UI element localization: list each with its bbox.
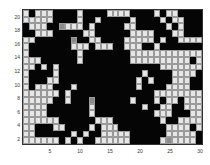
grid-cell [196,17,202,24]
x-tick-5: 5 [43,148,57,154]
y-tick-12: 12 [6,68,20,74]
grid-cell [196,57,202,64]
grid-cell [196,137,202,144]
grid-cell [196,117,202,124]
y-tick-14: 14 [6,54,20,60]
y-tick-18: 18 [6,27,20,33]
y-tick-20: 20 [6,14,20,20]
binary-grid-plot [22,9,203,145]
x-tick-15: 15 [103,148,117,154]
grid-cells [23,10,202,144]
grid-cell [196,23,202,30]
grid-cell [196,37,202,44]
grid-cell [196,70,202,77]
y-tick-6: 6 [6,109,20,115]
x-tick-25: 25 [163,148,177,154]
grid-cell [196,77,202,84]
grid-cell [196,90,202,97]
grid-cell [196,110,202,117]
y-tick-10: 10 [6,82,20,88]
y-tick-4: 4 [6,122,20,128]
y-tick-8: 8 [6,95,20,101]
x-tick-10: 10 [73,148,87,154]
y-tick-16: 16 [6,41,20,47]
grid-cell [196,97,202,104]
grid-cell [196,104,202,111]
grid-cell [196,131,202,138]
y-tick-2: 2 [6,136,20,142]
grid-cell [196,50,202,57]
grid-cell [196,30,202,37]
grid-cell [196,64,202,71]
grid-cell [196,124,202,131]
grid-cell [196,43,202,50]
grid-cell [196,84,202,91]
x-tick-30: 30 [193,148,207,154]
grid-cell [196,10,202,17]
x-tick-20: 20 [133,148,147,154]
